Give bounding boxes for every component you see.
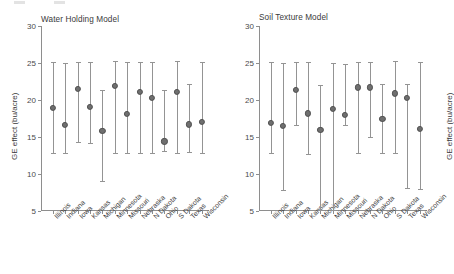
error-bar-cap-lower	[405, 188, 410, 189]
panel-title-soil-texture: Soil Texture Model	[259, 13, 328, 22]
error-bar-cap-upper	[343, 64, 348, 65]
error-bar-minnesota	[115, 61, 116, 154]
error-bar-cap-upper	[113, 61, 118, 62]
data-point-wisconsin	[198, 119, 204, 125]
error-bar-cap-lower	[269, 153, 274, 154]
error-bar-cap-lower	[175, 153, 180, 154]
y-tick-label: 15	[27, 133, 36, 142]
y-tick-label: 10	[27, 170, 36, 179]
data-point-indiana	[280, 123, 286, 129]
error-bar-cap-upper	[331, 63, 336, 64]
error-bar-cap-lower	[200, 153, 205, 154]
error-bar-cap-upper	[306, 62, 311, 63]
error-bar-cap-lower	[281, 190, 286, 191]
error-bar-cap-lower	[63, 153, 68, 154]
panel-soil-texture: Soil Texture Model GE effect (bu/acre) 3…	[217, 0, 434, 274]
y-tick-mark	[38, 63, 41, 64]
error-bar-cap-lower	[343, 125, 348, 126]
error-bar-n-dakota	[152, 62, 153, 152]
y-tick-mark	[256, 211, 259, 212]
data-point-ohio	[161, 138, 167, 144]
error-bar-michigan	[320, 85, 321, 210]
error-bar-cap-lower	[356, 153, 361, 154]
y-tick-mark	[38, 26, 41, 27]
error-bar-michigan	[102, 90, 103, 180]
data-point-texas	[404, 95, 410, 101]
data-point-kansas	[305, 110, 311, 116]
error-bar-cap-lower	[76, 142, 81, 143]
y-tick-mark	[38, 211, 41, 212]
error-bar-illinois	[271, 62, 272, 152]
data-point-nebraska	[136, 89, 142, 95]
error-bar-cap-upper	[125, 62, 130, 63]
error-bar-cap-lower	[380, 153, 385, 154]
y-tick-label: 15	[245, 133, 254, 142]
error-bar-cap-upper	[200, 62, 205, 63]
y-tick-mark	[256, 100, 259, 101]
y-axis-line-left	[41, 26, 42, 211]
error-bar-cap-lower	[393, 153, 398, 154]
y-tick-mark	[256, 174, 259, 175]
data-point-n-dakota	[367, 84, 373, 90]
error-bar-cap-upper	[281, 63, 286, 64]
error-bar-cap-lower	[88, 143, 93, 144]
error-bar-cap-upper	[418, 62, 423, 63]
data-point-missouri	[342, 112, 348, 118]
error-bar-cap-lower	[187, 152, 192, 153]
plot-area-soil-texture: 30252015105IllinoisIndianaIowaKansasMich…	[259, 26, 427, 211]
error-bar-wisconsin	[202, 62, 203, 154]
error-bar-cap-upper	[138, 62, 143, 63]
error-bar-cap-lower	[368, 137, 373, 138]
data-point-michigan	[317, 127, 323, 133]
error-bar-cap-upper	[380, 84, 385, 85]
error-bar-s-dakota	[395, 61, 396, 153]
panel-water-holding: Water Holding Model GE effect (bu/acre) …	[0, 0, 217, 274]
error-bar-cap-lower	[150, 153, 155, 154]
data-point-illinois	[268, 120, 274, 126]
plot-area-water-holding: 30252015105IllinoisIndianaIowaKansasMich…	[41, 26, 209, 211]
error-bar-cap-upper	[150, 62, 155, 63]
error-bar-cap-upper	[175, 61, 180, 62]
data-point-nebraska	[354, 84, 360, 90]
data-point-minnesota	[112, 83, 118, 89]
error-bar-cap-upper	[393, 61, 398, 62]
y-tick-mark	[38, 174, 41, 175]
y-tick-label: 30	[245, 22, 254, 31]
error-bar-cap-lower	[100, 181, 105, 182]
data-point-iowa	[292, 87, 298, 93]
error-bar-cap-lower	[294, 125, 299, 126]
error-bar-cap-upper	[269, 62, 274, 63]
error-bar-cap-lower	[125, 153, 130, 154]
error-bar-cap-upper	[88, 62, 93, 63]
error-bar-cap-upper	[356, 62, 361, 63]
error-bar-cap-lower	[51, 153, 56, 154]
data-point-s-dakota	[392, 90, 398, 96]
error-bar-cap-lower	[113, 153, 118, 154]
y-tick-label: 20	[245, 96, 254, 105]
error-bar-nebraska	[358, 62, 359, 153]
y-tick-mark	[256, 137, 259, 138]
error-bar-cap-upper	[100, 90, 105, 91]
error-bar-cap-upper	[187, 84, 192, 85]
error-bar-cap-upper	[368, 62, 373, 63]
y-tick-label: 30	[27, 22, 36, 31]
y-tick-label: 5	[32, 207, 36, 216]
data-point-illinois	[50, 105, 56, 111]
error-bar-cap-upper	[318, 85, 323, 86]
y-axis-line-right	[259, 26, 260, 211]
error-bar-iowa	[296, 62, 297, 126]
y-axis-label-left: GE effect (bu/acre)	[10, 93, 19, 160]
error-bar-cap-upper	[63, 63, 68, 64]
error-bar-indiana	[65, 63, 66, 153]
data-point-wisconsin	[416, 126, 422, 132]
y-tick-mark	[256, 63, 259, 64]
data-point-s-dakota	[174, 89, 180, 95]
y-tick-label: 20	[27, 96, 36, 105]
y-tick-mark	[38, 137, 41, 138]
error-bar-cap-upper	[76, 62, 81, 63]
error-bar-nebraska	[140, 62, 141, 154]
y-tick-label: 25	[27, 59, 36, 68]
y-axis-label-right: GE effect (bu/acre)	[445, 93, 454, 160]
error-bar-cap-lower	[418, 189, 423, 190]
